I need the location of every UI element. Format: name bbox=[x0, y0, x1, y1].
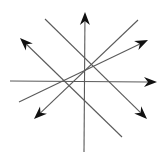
line-diag-down-right bbox=[45, 19, 141, 113]
line-diag-up-left bbox=[26, 44, 122, 137]
arrow-diagram bbox=[0, 0, 164, 161]
line-diag-down-left bbox=[41, 20, 138, 113]
line-horizontal-right bbox=[10, 81, 148, 82]
line-vertical-up bbox=[84, 21, 85, 152]
arrowhead-icon bbox=[134, 40, 148, 50]
lines-group bbox=[10, 19, 148, 152]
arrowheads-group bbox=[20, 12, 157, 119]
